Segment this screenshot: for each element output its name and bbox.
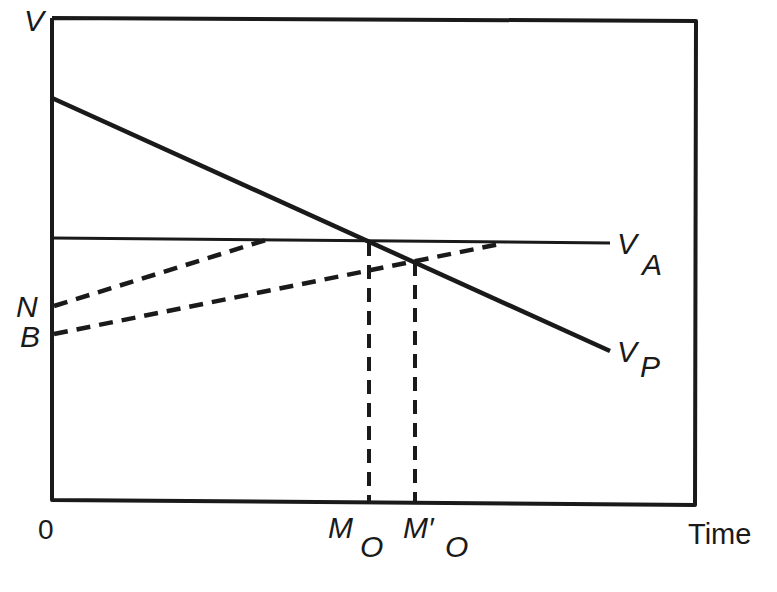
y-axis-label: V [24, 6, 44, 36]
b-label: B [20, 322, 40, 352]
mo-label-main: M [328, 513, 353, 543]
vp-label-sub: P [640, 352, 660, 382]
vp-label-main: V [617, 337, 637, 367]
origin-label: 0 [38, 516, 54, 544]
vp-line [52, 98, 610, 351]
mo-label-sub: O [360, 532, 383, 562]
mpo-label-main: M′ [403, 513, 434, 543]
va-label-main: V [617, 229, 637, 259]
mpo-label-sub: O [445, 532, 468, 562]
x-axis-label: Time [688, 520, 751, 549]
n-label: N [16, 292, 38, 322]
diagram-canvas [0, 0, 777, 592]
b-dashed-line [54, 243, 505, 334]
va-line [52, 238, 610, 243]
frame-box [52, 18, 696, 505]
va-label-sub: A [642, 250, 662, 280]
